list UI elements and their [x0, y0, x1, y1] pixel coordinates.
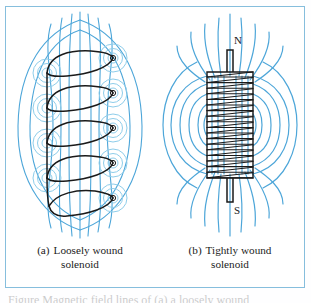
caption-line1-a: Loosely wound: [54, 244, 123, 256]
tightly-wound-solenoid-diagram: N S: [155, 6, 305, 244]
north-pole-label: N: [234, 34, 242, 46]
figure-root: (a)Loosely wound solenoid: [0, 0, 311, 303]
panel-tag-b: (b): [189, 244, 202, 256]
panel-tightly-wound: N S (b)Tightly wound solenoid: [155, 6, 305, 288]
south-pole-label: S: [234, 204, 240, 216]
figure-panels: (a)Loosely wound solenoid: [5, 6, 305, 288]
caption-line2-b: solenoid: [155, 258, 305, 272]
panel-loosely-wound: (a)Loosely wound solenoid: [5, 6, 155, 288]
caption-loosely-wound: (a)Loosely wound solenoid: [5, 244, 155, 271]
caption-line1-b: Tightly wound: [206, 244, 272, 256]
panel-tag-a: (a): [37, 244, 49, 256]
loosely-wound-solenoid-diagram: [5, 6, 155, 244]
caption-tightly-wound: (b)Tightly wound solenoid: [155, 244, 305, 271]
clipped-figure-caption: Figure Magnetic field lines of (a) a loo…: [8, 294, 304, 303]
caption-line2-a: solenoid: [5, 258, 155, 272]
